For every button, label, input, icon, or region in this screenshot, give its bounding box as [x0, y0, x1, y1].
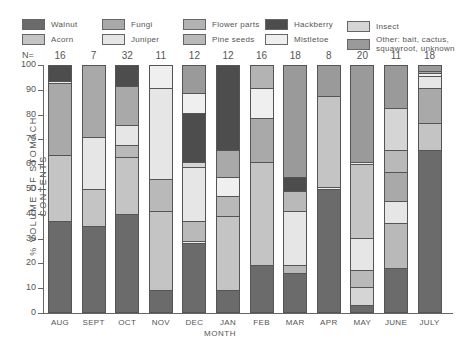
legend-swatch	[22, 19, 45, 30]
y-tick-label: 80	[12, 109, 36, 119]
bar-segment	[284, 265, 306, 272]
y-tick-label: 20	[12, 257, 36, 267]
bar-segment	[419, 88, 441, 122]
sample-size-value: 32	[114, 50, 140, 61]
legend-item-juniper: Juniper	[102, 34, 159, 45]
x-axis	[43, 313, 453, 314]
y-axis	[43, 65, 44, 313]
bar-segment	[217, 66, 239, 150]
bar-segment	[150, 88, 172, 179]
bar-segment	[183, 66, 205, 93]
y-tick	[38, 239, 43, 240]
legend-label: Walnut	[51, 20, 77, 29]
sample-size-value: 20	[349, 50, 375, 61]
bar-segment	[351, 305, 373, 312]
y-tick	[38, 263, 43, 264]
bar-dec	[182, 65, 206, 313]
bar-segment	[116, 66, 138, 86]
legend-item-hackberry: Hackberry	[265, 19, 333, 30]
bar-segment	[351, 66, 373, 162]
bar-segment	[385, 268, 407, 312]
x-tick-label: NOV	[144, 318, 178, 327]
sample-size-value: 8	[316, 50, 342, 61]
bar-segment	[49, 221, 71, 312]
bar-aug	[48, 65, 72, 313]
sample-size-value: 12	[215, 50, 241, 61]
legend-item-mistletoe: Mistletoe	[265, 34, 329, 45]
legend-swatch	[102, 19, 125, 30]
sample-size-value: 11	[383, 50, 409, 61]
sample-size-value: 18	[417, 50, 443, 61]
bar-segment	[385, 150, 407, 172]
y-tick	[38, 214, 43, 215]
bar-june	[384, 65, 408, 313]
bar-segment	[150, 211, 172, 290]
x-tick-label: JAN	[211, 318, 245, 327]
legend-label: Insect	[376, 22, 399, 31]
legend-label: Hackberry	[294, 20, 333, 29]
bar-segment	[251, 118, 273, 162]
legend-swatch	[347, 21, 370, 32]
legend-swatch	[102, 34, 125, 45]
legend-swatch	[265, 34, 288, 45]
y-tick-label: 60	[12, 158, 36, 168]
bar-segment	[83, 189, 105, 226]
legend-label: Fungi	[131, 20, 153, 29]
y-tick-label: 40	[12, 208, 36, 218]
x-tick-label: AUG	[43, 318, 77, 327]
bar-segment	[251, 265, 273, 312]
x-tick-label: SEPT	[77, 318, 111, 327]
bar-segment	[116, 145, 138, 157]
y-tick-label: 50	[12, 183, 36, 193]
bar-segment	[419, 76, 441, 88]
x-axis-title: MONTH	[190, 329, 250, 338]
bar-feb	[250, 65, 274, 313]
bar-sept	[82, 65, 106, 313]
x-tick-label: MAR	[278, 318, 312, 327]
sample-size-value: 11	[148, 50, 174, 61]
y-tick	[38, 65, 43, 66]
legend-swatch	[183, 34, 206, 45]
legend-swatch	[183, 19, 206, 30]
bar-segment	[385, 172, 407, 202]
x-tick-label: JULY	[413, 318, 447, 327]
sample-size-value: 18	[282, 50, 308, 61]
chart-legend: Walnut Acorn Fungi Juniper Flower parts …	[0, 0, 460, 52]
bar-segment	[217, 196, 239, 216]
bar-segment	[318, 189, 340, 312]
bar-nov	[149, 65, 173, 313]
legend-item-flower-parts: Flower parts	[183, 19, 260, 30]
bar-segment	[419, 123, 441, 150]
bar-segment	[351, 164, 373, 238]
bar-segment	[351, 238, 373, 270]
bar-segment	[284, 66, 306, 177]
bar-segment	[217, 150, 239, 177]
x-tick-label: APR	[312, 318, 346, 327]
legend-swatch	[347, 39, 370, 50]
bar-segment	[217, 290, 239, 312]
x-tick-label: DEC	[177, 318, 211, 327]
x-tick-label: FEB	[245, 318, 279, 327]
legend-label: Juniper	[131, 35, 159, 44]
y-tick	[38, 90, 43, 91]
bar-oct	[115, 65, 139, 313]
y-tick-label: 30	[12, 233, 36, 243]
bar-segment	[385, 223, 407, 267]
sample-size-value: 16	[249, 50, 275, 61]
bar-segment	[251, 88, 273, 118]
y-tick-label: 90	[12, 84, 36, 94]
bar-segment	[284, 191, 306, 211]
bar-segment	[251, 66, 273, 88]
bar-segment	[83, 226, 105, 312]
bar-segment	[385, 66, 407, 108]
legend-label: Pine seeds	[212, 35, 255, 44]
sample-size-value: 7	[81, 50, 107, 61]
bar-segment	[83, 137, 105, 189]
bar-segment	[385, 108, 407, 150]
bar-segment	[217, 216, 239, 290]
bar-segment	[385, 201, 407, 223]
sample-size-value: 12	[181, 50, 207, 61]
legend-label: Acorn	[51, 35, 73, 44]
bar-segment	[351, 287, 373, 304]
bar-segment	[116, 214, 138, 312]
